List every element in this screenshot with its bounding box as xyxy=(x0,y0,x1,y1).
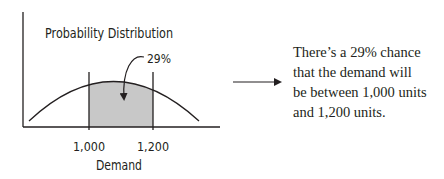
description-text: There’s a 29% chance that the demand wil… xyxy=(293,42,443,122)
chart-title: Probability Distribution xyxy=(45,25,173,41)
tick-label-1000: 1,000 xyxy=(73,139,105,154)
shaded-area xyxy=(29,82,199,128)
description-line: There’s a 29% chance xyxy=(293,42,443,62)
description-line: that the demand will xyxy=(293,62,443,82)
annotation-label: 29% xyxy=(147,51,171,66)
description-line: be between 1,000 units xyxy=(293,82,443,102)
tick-label-1200: 1,200 xyxy=(137,139,169,154)
description-line: and 1,200 units. xyxy=(293,102,443,122)
x-axis-label: Demand xyxy=(96,157,142,173)
